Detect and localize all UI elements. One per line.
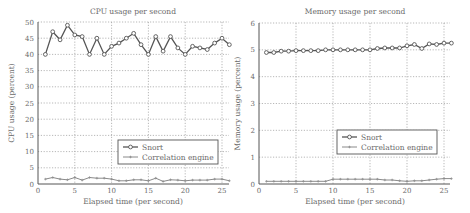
series-correlation-engine	[265, 177, 453, 182]
data-point	[354, 178, 357, 181]
data-point	[103, 177, 106, 180]
data-point	[405, 44, 409, 48]
series-snort	[43, 23, 231, 56]
data-point	[265, 51, 269, 55]
data-point	[81, 179, 84, 182]
data-point	[273, 180, 276, 183]
data-point	[88, 176, 91, 179]
data-point	[331, 48, 335, 52]
data-point	[96, 177, 99, 180]
y-tick-label: 6	[251, 20, 256, 28]
x-tick-label: 25	[440, 187, 449, 195]
data-point	[95, 36, 99, 40]
x-tick-label: 15	[366, 187, 375, 195]
cpu-usage-chart: 051015202530354045500510152025CPU usage …	[7, 7, 231, 206]
y-tick-label: 10	[25, 148, 34, 156]
data-point	[102, 53, 106, 57]
y-tick-label: 0	[30, 181, 34, 189]
data-point	[353, 48, 357, 52]
data-point	[154, 35, 158, 39]
data-point	[124, 36, 128, 40]
data-point	[213, 41, 217, 45]
data-point	[132, 31, 136, 35]
legend: SnortCorrelation engine	[337, 130, 437, 154]
data-point	[140, 178, 143, 181]
data-point	[317, 180, 320, 183]
data-point	[450, 41, 454, 45]
y-axis-label: Memory usage (percent)	[233, 56, 242, 150]
data-point	[169, 35, 173, 39]
data-point	[368, 48, 372, 52]
y-tick-label: 5	[251, 46, 255, 54]
x-tick-label: 0	[257, 187, 261, 195]
y-tick-label: 3	[251, 100, 255, 108]
data-point	[435, 178, 438, 181]
y-axis-label: CPU usage (percent)	[7, 63, 16, 142]
data-point	[110, 44, 114, 48]
data-point	[147, 179, 150, 182]
data-point	[117, 41, 121, 45]
data-point	[147, 53, 151, 57]
data-point	[443, 177, 446, 180]
data-point	[184, 179, 187, 182]
x-axis-label: Elapsed time (per second)	[83, 197, 183, 206]
legend-label-correlation-engine: Correlation engine	[142, 153, 214, 162]
chart-title: Memory usage per second	[305, 7, 406, 16]
data-point	[74, 176, 77, 179]
data-point	[339, 178, 342, 181]
x-tick-label: 0	[36, 187, 40, 195]
data-point	[59, 178, 62, 181]
data-point	[428, 179, 431, 182]
x-tick-label: 10	[107, 187, 116, 195]
y-tick-label: 25	[25, 100, 34, 108]
data-point	[421, 179, 424, 182]
data-point	[279, 49, 283, 53]
data-point	[191, 179, 194, 182]
data-point	[310, 180, 313, 183]
data-point	[339, 48, 343, 52]
legend: SnortCorrelation engine	[118, 140, 218, 164]
data-point	[324, 48, 328, 52]
y-tick-label: 2	[251, 127, 255, 135]
y-tick-label: 45	[25, 35, 34, 43]
data-point	[198, 46, 202, 50]
x-axis-label: Elapsed time (per second)	[305, 197, 405, 206]
y-tick-label: 30	[25, 83, 34, 91]
x-tick-label: 5	[73, 187, 77, 195]
x-tick-label: 5	[294, 187, 298, 195]
data-point	[118, 179, 121, 182]
data-point	[324, 180, 327, 183]
data-point	[272, 51, 276, 55]
data-point	[139, 43, 143, 47]
data-point	[43, 53, 47, 57]
data-point	[66, 178, 69, 181]
data-point	[51, 30, 55, 34]
data-point	[227, 43, 231, 47]
data-point	[442, 41, 446, 45]
data-point	[406, 180, 409, 183]
data-point	[280, 180, 283, 183]
x-tick-label: 15	[144, 187, 153, 195]
legend-label-snort: Snort	[142, 143, 163, 152]
data-point	[376, 47, 380, 51]
data-point	[88, 53, 92, 57]
data-point	[384, 179, 387, 182]
data-point	[383, 46, 387, 50]
data-point	[220, 36, 224, 40]
data-point	[294, 49, 298, 53]
data-point	[228, 179, 231, 182]
data-point	[361, 48, 365, 52]
y-tick-label: 1	[251, 154, 255, 162]
data-point	[316, 49, 320, 53]
y-tick-label: 20	[25, 116, 34, 124]
data-point	[161, 49, 165, 53]
data-point	[221, 178, 224, 181]
data-point	[332, 178, 335, 181]
x-tick-label: 20	[181, 187, 190, 195]
data-point	[191, 44, 195, 48]
data-point	[427, 42, 431, 46]
data-point	[361, 178, 364, 181]
data-point	[199, 179, 202, 182]
series-snort	[265, 41, 454, 54]
data-point	[420, 47, 424, 51]
